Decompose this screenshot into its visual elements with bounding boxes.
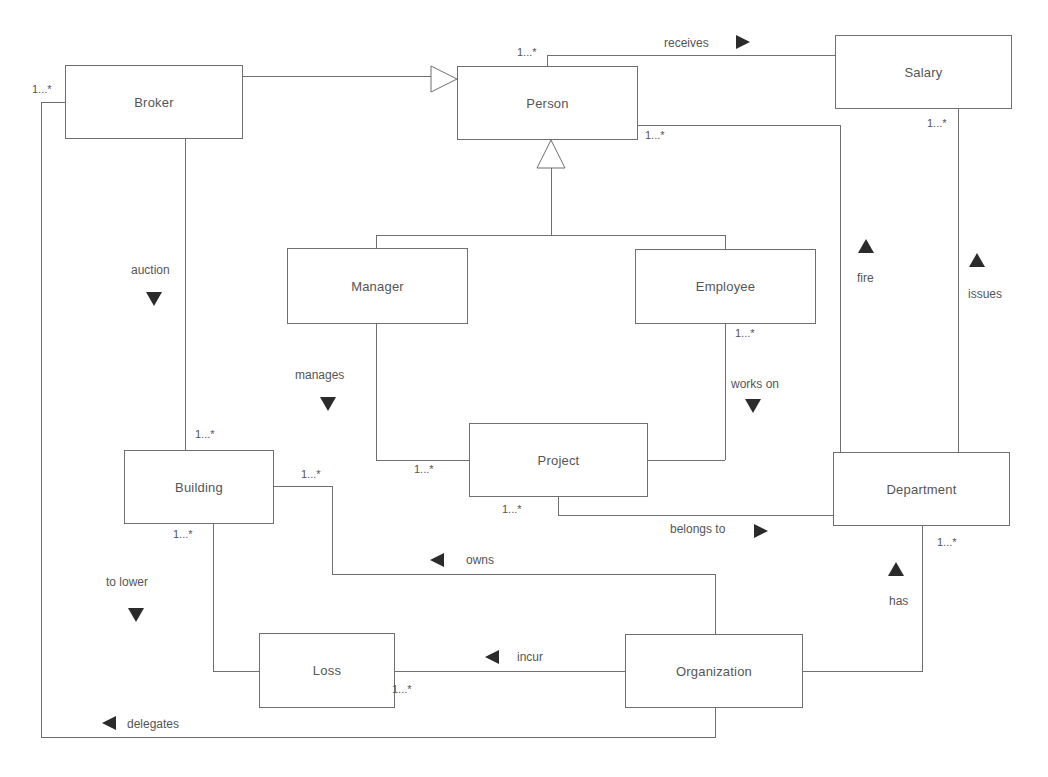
line-gen-trunk <box>551 168 552 235</box>
multiplicity-salary-bottom: 1...* <box>927 117 947 129</box>
line-broker-building <box>185 138 186 450</box>
class-department[interactable]: Department <box>833 452 1010 526</box>
line-org-broker-v2 <box>41 102 42 738</box>
multiplicity-person-right: 1...* <box>645 129 665 141</box>
assoc-manages-label: manages <box>295 368 344 382</box>
multiplicity-employee-bottom: 1...* <box>735 327 755 339</box>
generalization-triangle-person-bottom-icon <box>537 140 565 168</box>
line-org-broker-v1 <box>715 707 716 737</box>
line-gen-manager <box>376 235 377 249</box>
line-building-org-v2 <box>715 574 716 635</box>
class-broker[interactable]: Broker <box>65 65 243 139</box>
class-building-label: Building <box>175 480 223 495</box>
line-building-loss-v <box>213 522 214 671</box>
class-salary[interactable]: Salary <box>835 35 1012 109</box>
line-manager-project-h <box>376 460 470 461</box>
multiplicity-person-top: 1...* <box>517 46 537 58</box>
direction-arrow-up-icon <box>888 562 904 576</box>
line-building-loss-h <box>213 671 260 672</box>
direction-arrow-right-icon <box>736 35 750 49</box>
line-org-dept-v <box>922 525 923 672</box>
class-manager[interactable]: Manager <box>287 248 468 324</box>
uml-class-diagram: Broker Person Salary Manager Employee Pr… <box>0 0 1048 777</box>
line-employee-project-h <box>647 460 725 461</box>
class-loss[interactable]: Loss <box>259 633 395 708</box>
direction-arrow-down-icon <box>128 608 144 622</box>
line-employee-project-v <box>725 323 726 460</box>
class-loss-label: Loss <box>313 663 341 678</box>
line-gen-bar <box>376 235 725 236</box>
class-building[interactable]: Building <box>124 450 274 524</box>
assoc-belongs-to-label: belongs to <box>670 522 725 536</box>
class-broker-label: Broker <box>134 95 174 110</box>
direction-arrow-up-icon <box>858 239 874 253</box>
multiplicity-project-left: 1...* <box>414 463 434 475</box>
multiplicity-broker-left: 1...* <box>32 83 52 95</box>
direction-arrow-down-icon <box>146 292 162 306</box>
assoc-owns-label: owns <box>466 553 494 567</box>
assoc-incur-label: incur <box>517 650 543 664</box>
line-person-dept-v <box>840 125 841 452</box>
line-building-org-h2 <box>332 574 715 575</box>
generalization-triangle-broker-icon <box>431 66 457 92</box>
direction-arrow-up-icon <box>969 253 985 267</box>
direction-arrow-down-icon <box>320 397 336 411</box>
direction-arrow-left-icon <box>430 553 444 567</box>
assoc-has-label: has <box>889 594 908 608</box>
assoc-delegates-label: delegates <box>127 717 179 731</box>
multiplicity-building-top: 1...* <box>195 428 215 440</box>
direction-arrow-left-icon <box>102 716 116 730</box>
line-salary-dept <box>958 108 959 452</box>
assoc-to-lower-label: to lower <box>106 575 148 589</box>
assoc-works-on-label: works on <box>731 377 779 391</box>
class-employee-label: Employee <box>696 279 755 294</box>
direction-arrow-left-icon <box>485 650 499 664</box>
line-gen-employee <box>725 235 726 249</box>
class-person[interactable]: Person <box>457 66 638 140</box>
line-building-org-v1 <box>332 486 333 574</box>
class-department-label: Department <box>887 482 957 497</box>
assoc-auction-label: auction <box>131 263 170 277</box>
multiplicity-building-right: 1...* <box>301 468 321 480</box>
line-loss-org <box>394 671 626 672</box>
multiplicity-building-bottom: 1...* <box>173 528 193 540</box>
line-project-dept-v <box>558 496 559 515</box>
assoc-issues-label: issues <box>968 287 1002 301</box>
class-project[interactable]: Project <box>469 423 648 497</box>
class-organization[interactable]: Organization <box>625 634 803 708</box>
class-person-label: Person <box>526 96 568 111</box>
multiplicity-organization-left: 1...* <box>392 683 412 695</box>
class-organization-label: Organization <box>676 664 752 679</box>
line-person-salary-h <box>547 55 837 56</box>
multiplicity-department-bottom: 1...* <box>937 536 957 548</box>
line-building-org-h1 <box>273 486 332 487</box>
class-salary-label: Salary <box>904 65 942 80</box>
multiplicity-project-bottom: 1...* <box>502 503 522 515</box>
direction-arrow-right-icon <box>754 524 768 538</box>
line-org-dept-h <box>802 671 923 672</box>
direction-arrow-down-icon <box>745 399 761 413</box>
line-manager-project-v <box>376 323 377 460</box>
class-project-label: Project <box>538 453 580 468</box>
line-org-broker-h2 <box>41 102 66 103</box>
class-employee[interactable]: Employee <box>635 249 816 324</box>
line-person-dept-h <box>637 125 840 126</box>
line-org-broker-h <box>41 737 716 738</box>
assoc-receives-label: receives <box>664 36 709 50</box>
assoc-fire-label: fire <box>857 271 874 285</box>
line-project-dept-h <box>558 515 834 516</box>
class-manager-label: Manager <box>351 279 404 294</box>
